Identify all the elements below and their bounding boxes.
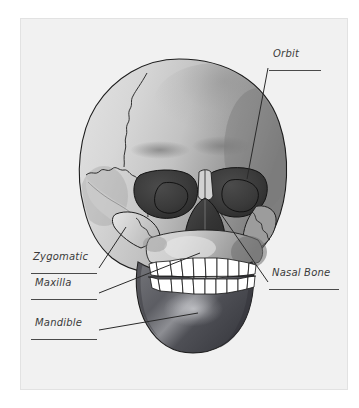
label-zygomatic-text: Zygomatic: [33, 251, 88, 262]
mandible-highlight: [162, 292, 230, 332]
maxilla-highlight: [164, 236, 216, 260]
label-nasal-bone-text: Nasal Bone: [272, 267, 330, 278]
skull-illustration: [79, 59, 292, 353]
brow-shadow-right: [192, 136, 252, 156]
label-maxilla-text: Maxilla: [35, 277, 72, 288]
nasal-bone: [198, 170, 213, 201]
label-mandible-text: Mandible: [35, 317, 82, 328]
label-maxilla-underline: [31, 299, 97, 300]
screenshot-root: Orbit Nasal Bone Zygomatic Maxilla Mandi…: [0, 0, 359, 408]
label-orbit-underline: [269, 70, 321, 71]
label-nasal-bone-underline: [269, 289, 339, 290]
label-mandible-underline: [31, 339, 97, 340]
infraorbital-shadow-left: [143, 236, 167, 252]
skull-diagram: [0, 0, 359, 408]
label-orbit-text: Orbit: [273, 48, 299, 59]
teeth-upper-row: [149, 258, 256, 278]
label-zygomatic-underline: [31, 273, 97, 274]
brow-shadow-left: [130, 141, 190, 159]
